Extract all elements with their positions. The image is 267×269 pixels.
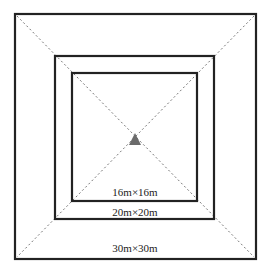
label-inner: 16m×16m: [112, 186, 158, 198]
label-middle: 20m×20m: [112, 206, 158, 218]
nested-plot-diagram: 16m×16m 20m×20m 30m×30m: [0, 0, 267, 269]
center-triangle-icon: [129, 133, 141, 145]
label-outer: 30m×30m: [112, 242, 158, 254]
